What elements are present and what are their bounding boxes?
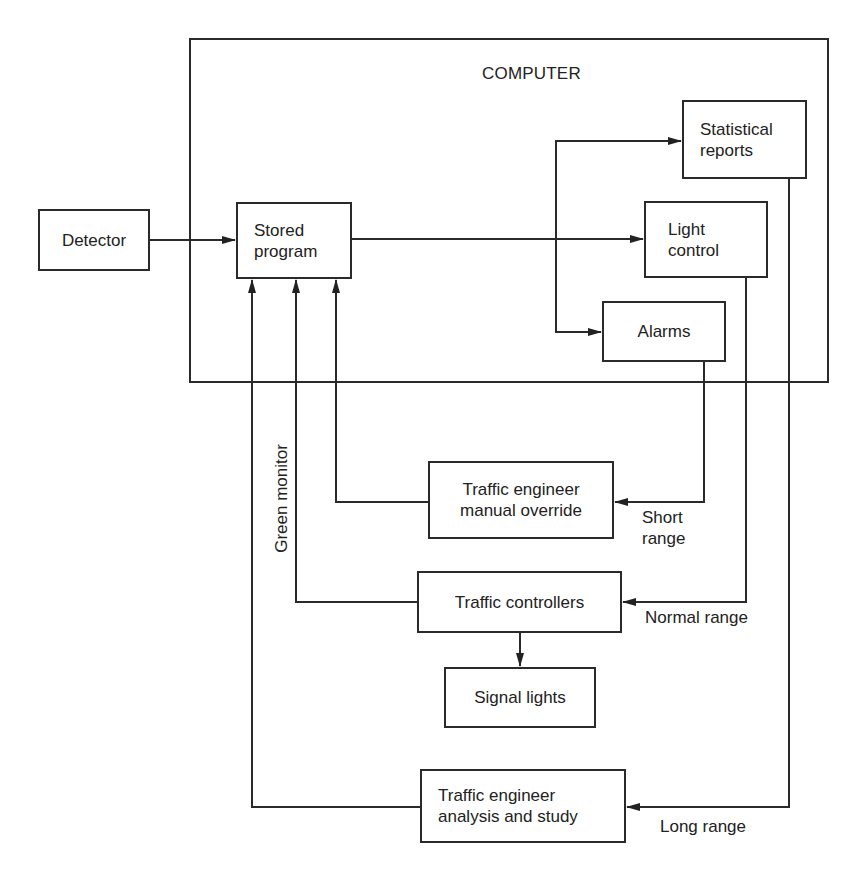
node-traffic-controllers[interactable]: Traffic controllers	[417, 571, 622, 633]
node-stored-program[interactable]: Stored program	[236, 202, 352, 279]
node-detector-label: Detector	[62, 230, 126, 251]
edge-manual-override-to-stored-program	[336, 280, 428, 502]
node-manual-override[interactable]: Traffic engineer manual override	[428, 461, 614, 539]
edge-green-monitor-to-stored-program	[296, 280, 417, 602]
node-detector[interactable]: Detector	[38, 209, 150, 271]
node-analysis-study[interactable]: Traffic engineer analysis and study	[420, 769, 626, 843]
node-stored-program-label: Stored program	[254, 220, 317, 262]
node-light-control[interactable]: Light control	[644, 201, 768, 278]
node-alarms-label: Alarms	[638, 321, 691, 342]
edge-label-green-monitor: Green monitor	[271, 442, 292, 556]
edge-label-short-range: Short range	[642, 507, 685, 549]
node-signal-lights[interactable]: Signal lights	[444, 667, 596, 728]
node-statistical-reports[interactable]: Statistical reports	[682, 100, 807, 179]
edge-label-long-range: Long range	[660, 816, 746, 837]
node-manual-override-label: Traffic engineer manual override	[460, 479, 582, 521]
edge-label-normal-range: Normal range	[645, 607, 748, 628]
node-light-control-label: Light control	[668, 219, 719, 261]
node-traffic-controllers-label: Traffic controllers	[455, 592, 584, 613]
computer-container-title: COMPUTER	[482, 64, 581, 84]
node-analysis-study-label: Traffic engineer analysis and study	[438, 785, 578, 827]
node-signal-lights-label: Signal lights	[474, 687, 566, 708]
node-statistical-reports-label: Statistical reports	[700, 119, 773, 161]
node-alarms[interactable]: Alarms	[602, 301, 726, 362]
